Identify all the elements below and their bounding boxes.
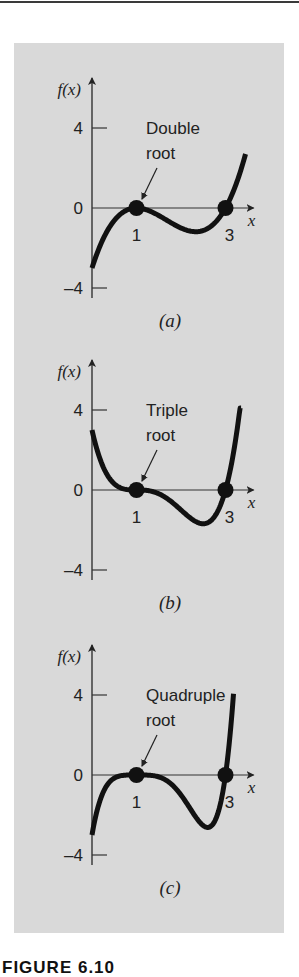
- y-axis-label: f(x): [57, 647, 81, 666]
- annotation-pointer-arrow: [142, 450, 157, 481]
- figure-caption: FIGURE 6.10: [2, 958, 115, 977]
- root-marker: [218, 200, 234, 216]
- chart-panel-c: 40–4f(x)x13Quadrupleroot(c): [57, 645, 255, 899]
- x-tick-label: 3: [225, 226, 234, 245]
- x-axis-label: x: [247, 493, 256, 512]
- y-axis-label: f(x): [57, 362, 81, 381]
- root-marker: [129, 482, 145, 498]
- y-axis-label: f(x): [57, 80, 81, 99]
- x-axis-label: x: [247, 211, 256, 230]
- root-annotation-line1: Quadruple: [146, 686, 225, 705]
- root-annotation-line2: root: [146, 426, 176, 445]
- root-marker: [218, 767, 234, 783]
- y-tick-label: –4: [64, 846, 83, 865]
- root-marker: [218, 482, 234, 498]
- panel-label: (c): [159, 877, 180, 899]
- chart-panel-b: 40–4f(x)x13Tripleroot(b): [57, 360, 255, 614]
- y-tick-label: 0: [74, 481, 83, 500]
- x-tick-label: 1: [132, 793, 141, 812]
- x-tick-label: 3: [225, 793, 234, 812]
- annotation-pointer-arrow: [142, 735, 157, 766]
- x-tick-label: 1: [132, 226, 141, 245]
- x-tick-label: 3: [225, 508, 234, 527]
- panel-label: (a): [159, 310, 181, 332]
- x-axis-label: x: [247, 778, 256, 797]
- y-tick-label: 0: [74, 766, 83, 785]
- y-tick-label: 4: [74, 686, 83, 705]
- y-tick-label: 4: [74, 401, 83, 420]
- root-marker: [129, 200, 145, 216]
- chart-panel-a: 40–4f(x)x13Doubleroot(a): [57, 78, 255, 332]
- y-tick-label: 0: [74, 199, 83, 218]
- root-annotation-line2: root: [146, 711, 176, 730]
- panel-label: (b): [159, 592, 181, 614]
- y-tick-label: –4: [64, 279, 83, 298]
- root-annotation-line2: root: [146, 144, 176, 163]
- root-annotation-line1: Triple: [146, 401, 188, 420]
- root-annotation-line1: Double: [146, 119, 200, 138]
- root-marker: [129, 767, 145, 783]
- x-tick-label: 1: [132, 508, 141, 527]
- y-tick-label: 4: [74, 119, 83, 138]
- annotation-pointer-arrow: [142, 168, 157, 199]
- y-tick-label: –4: [64, 561, 83, 580]
